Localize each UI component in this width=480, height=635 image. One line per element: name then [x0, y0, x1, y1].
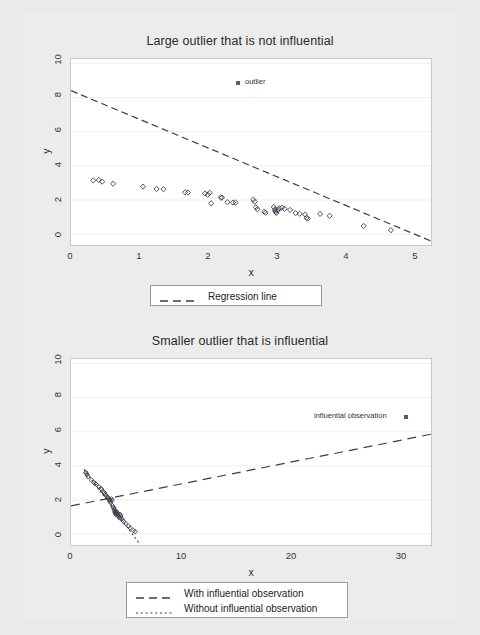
x-tick-top-0: 0 — [58, 250, 82, 261]
figure-page: Large outlier that is not influential y … — [0, 0, 480, 635]
x-tick-top-5: 5 — [403, 250, 427, 261]
y-axis-title-top: y — [40, 141, 52, 161]
chart-title-bottom: Smaller outlier that is influential — [18, 334, 462, 348]
chart-title-top: Large outlier that is not influential — [18, 34, 462, 48]
influential-observation-label: influential observation — [314, 411, 387, 420]
y-tick-bottom-8: 8 — [52, 386, 63, 404]
x-axis-title-top: x — [221, 266, 281, 278]
legend-top[interactable]: Regression line — [150, 285, 322, 306]
legend-label-with-influential: With influential observation — [184, 588, 304, 599]
chart-panel-top: Large outlier that is not influential y … — [18, 20, 462, 320]
x-tick-top-3: 3 — [265, 250, 289, 261]
x-tick-top-1: 1 — [127, 250, 151, 261]
outlier-marker-top — [236, 81, 240, 85]
x-tick-top-2: 2 — [196, 250, 220, 261]
x-tick-bottom-0: 0 — [58, 550, 82, 561]
y-tick-top-6: 6 — [52, 121, 63, 139]
scatter-points-top — [91, 177, 394, 232]
legend-label-without-influential: Without influential observation — [184, 603, 317, 614]
plot-area-top: outlier — [70, 58, 432, 246]
legend-row-with-influential[interactable]: With influential observation — [135, 586, 339, 601]
legend-label-regression-line: Regression line — [208, 291, 277, 302]
y-tick-bottom-10: 10 — [52, 351, 63, 369]
influential-observation-marker — [404, 415, 408, 419]
y-tick-bottom-4: 4 — [52, 456, 63, 474]
y-tick-bottom-6: 6 — [52, 421, 63, 439]
legend-bottom[interactable]: With influential observation Without inf… — [126, 582, 348, 618]
legend-key-dotted-icon — [135, 604, 175, 614]
y-tick-bottom-0: 0 — [52, 526, 63, 544]
regression-line-without-influential — [84, 469, 139, 542]
gridlines-top — [71, 63, 431, 234]
plot-svg-top — [71, 59, 431, 245]
x-tick-bottom-20: 20 — [279, 550, 303, 561]
regression-line-with-influential — [71, 434, 431, 506]
x-axis-title-bottom: x — [221, 566, 281, 578]
x-tick-top-4: 4 — [334, 250, 358, 261]
legend-key-dashed-icon — [135, 589, 175, 599]
x-tick-bottom-10: 10 — [169, 550, 193, 561]
chart-panel-bottom: Smaller outlier that is influential y 10… — [18, 320, 462, 620]
legend-row-regression-line[interactable]: Regression line — [159, 289, 313, 304]
y-tick-top-0: 0 — [52, 226, 63, 244]
y-tick-top-4: 4 — [52, 156, 63, 174]
y-axis-title-bottom: y — [40, 441, 52, 461]
y-tick-top-8: 8 — [52, 86, 63, 104]
y-tick-bottom-2: 2 — [52, 491, 63, 509]
legend-key-dashed-icon — [159, 292, 199, 302]
legend-row-without-influential[interactable]: Without influential observation — [135, 601, 339, 616]
y-tick-top-10: 10 — [52, 51, 63, 69]
outlier-label-top: outlier — [245, 77, 265, 86]
x-tick-bottom-30: 30 — [389, 550, 413, 561]
plot-area-bottom: influential observation — [70, 358, 432, 546]
plot-svg-bottom — [71, 359, 431, 545]
y-tick-top-2: 2 — [52, 191, 63, 209]
figure-canvas: Large outlier that is not influential y … — [18, 12, 462, 620]
gridlines-bottom — [71, 363, 431, 534]
